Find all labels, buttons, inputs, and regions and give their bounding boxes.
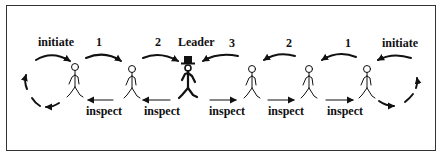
agent-figure-5 — [359, 66, 375, 99]
label-initiate-left: initiate — [38, 35, 75, 49]
arrow-initiate-left — [36, 55, 70, 61]
message-arrows-right — [203, 54, 411, 61]
arrow-1-left — [86, 55, 121, 61]
loop-right-segment — [405, 94, 413, 102]
loop-right-bottom — [379, 101, 394, 106]
label-step-1-right: 1 — [345, 36, 351, 50]
agent-figure-4 — [301, 66, 317, 99]
arrow-1-right — [322, 54, 356, 60]
top-hat-icon — [184, 56, 192, 63]
label-step-2-left: 2 — [155, 35, 161, 49]
loop-left-up — [25, 75, 27, 89]
agent-figure-3 — [244, 66, 260, 99]
label-step-2-right: 2 — [286, 36, 292, 50]
inspect-label-5: inspect — [327, 104, 363, 118]
message-arrows-left — [36, 55, 178, 61]
inspect-label-2: inspect — [144, 104, 180, 118]
leader-label: Leader — [178, 35, 215, 49]
label-step-1-left: 1 — [96, 35, 102, 49]
label-initiate-right: initiate — [382, 36, 419, 50]
loop-left-segment — [32, 98, 40, 106]
loop-right-up — [416, 78, 417, 88]
arrow-2-left — [143, 55, 178, 61]
inspect-label-4: inspect — [268, 104, 304, 118]
agent-figure-2 — [124, 66, 140, 99]
arrow-2-right — [264, 54, 295, 60]
arrow-3-right — [203, 55, 238, 61]
inspect-label-1: inspect — [86, 104, 122, 118]
leader-election-diagram: initiate 1 2 Leader 3 2 1 initiate — [0, 0, 445, 160]
leader-figure — [179, 56, 197, 98]
arrow-initiate-right — [378, 55, 411, 60]
loop-arrow-left — [25, 75, 59, 107]
loop-arrow-right — [379, 78, 417, 106]
inspect-label-3: inspect — [209, 104, 245, 118]
agent-figure-1 — [67, 64, 83, 98]
label-step-3-right: 3 — [229, 36, 235, 50]
loop-left-bottom — [46, 103, 59, 107]
